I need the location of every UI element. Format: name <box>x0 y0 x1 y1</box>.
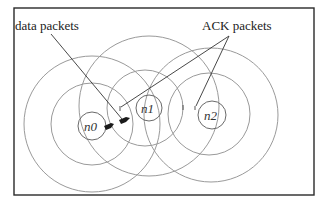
node-label-n2: n2 <box>204 108 218 123</box>
node-label-n1: n1 <box>141 101 154 116</box>
data-packets-label: data packets <box>15 18 79 33</box>
node-label-n0: n0 <box>84 119 98 134</box>
ack-packets-label: ACK packets <box>202 18 272 33</box>
diagram-frame <box>14 8 314 195</box>
wireless-network-diagram: n0 n1 n2 data packets ACK packets <box>0 0 331 208</box>
